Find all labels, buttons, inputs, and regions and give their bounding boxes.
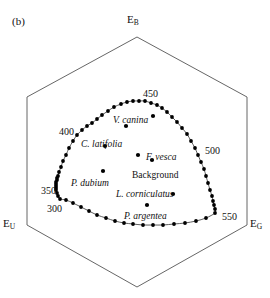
locus-point bbox=[113, 219, 117, 223]
locus-point bbox=[106, 109, 110, 113]
locus-point bbox=[185, 132, 189, 136]
locus-point bbox=[204, 174, 208, 178]
vertex-label-eg-base: E bbox=[250, 217, 257, 229]
color-hexagon-figure: (b) EB EU EG 450400500350300550 V. canin… bbox=[0, 0, 270, 298]
vertex-label-eg-sub: G bbox=[257, 222, 262, 231]
locus-point bbox=[172, 222, 176, 226]
hexagon-outline bbox=[27, 37, 247, 287]
locus-point bbox=[155, 103, 159, 107]
locus-point bbox=[204, 216, 208, 220]
sample-label: P. dubium bbox=[71, 179, 109, 189]
sample-point bbox=[145, 203, 149, 207]
locus-point bbox=[119, 102, 123, 106]
wavelength-label: 450 bbox=[143, 89, 158, 99]
hexagon-plot-svg bbox=[0, 0, 270, 298]
locus-point bbox=[87, 209, 91, 213]
locus-point bbox=[143, 99, 147, 103]
locus-point bbox=[210, 194, 214, 198]
locus-point bbox=[208, 188, 212, 192]
sample-label: F. vesca bbox=[146, 153, 176, 163]
wavelength-label: 550 bbox=[222, 212, 237, 222]
locus-point bbox=[213, 207, 217, 211]
sample-point bbox=[151, 114, 155, 118]
locus-point bbox=[141, 223, 145, 227]
vertex-label-eg: EG bbox=[250, 218, 262, 229]
vertex-label-eb-sub: B bbox=[134, 18, 139, 27]
vertex-label-eb-base: E bbox=[127, 13, 134, 25]
locus-point bbox=[85, 124, 89, 128]
locus-point bbox=[175, 120, 179, 124]
locus-point bbox=[79, 205, 83, 209]
locus-point bbox=[100, 113, 104, 117]
locus-point bbox=[71, 201, 75, 205]
locus-point bbox=[151, 223, 155, 227]
locus-point bbox=[170, 115, 174, 119]
locus-point bbox=[131, 222, 135, 226]
vertex-label-eb: EB bbox=[127, 14, 139, 25]
locus-point bbox=[213, 211, 217, 215]
locus-point bbox=[211, 199, 215, 203]
locus-point bbox=[131, 99, 135, 103]
locus-point bbox=[95, 117, 99, 121]
locus-point bbox=[149, 101, 153, 105]
locus-point bbox=[80, 128, 84, 132]
locus-point bbox=[95, 213, 99, 217]
locus-point bbox=[64, 153, 68, 157]
locus-point bbox=[202, 167, 206, 171]
wavelength-label: 400 bbox=[59, 127, 74, 137]
sample-label: P. argentea bbox=[124, 212, 167, 222]
locus-point bbox=[199, 160, 203, 164]
locus-point bbox=[189, 139, 193, 143]
locus-point bbox=[212, 203, 216, 207]
locus-point bbox=[56, 174, 60, 178]
locus-point bbox=[180, 126, 184, 130]
locus-point bbox=[71, 139, 75, 143]
wavelength-label: 350 bbox=[41, 186, 56, 196]
locus-point bbox=[137, 99, 141, 103]
locus-point bbox=[161, 223, 165, 227]
locus-point bbox=[112, 105, 116, 109]
vertex-label-eu-base: E bbox=[3, 217, 10, 229]
locus-point bbox=[64, 198, 68, 202]
locus-point bbox=[90, 121, 94, 125]
sample-label: Background bbox=[132, 171, 178, 181]
locus-point bbox=[75, 133, 79, 137]
sample-label: C. latifolia bbox=[81, 140, 122, 150]
sample-label: V. canina bbox=[113, 116, 148, 126]
wavelength-label: 300 bbox=[47, 204, 62, 214]
locus-point bbox=[59, 165, 63, 169]
wavelength-label: 500 bbox=[205, 146, 220, 156]
sample-point bbox=[101, 169, 105, 173]
locus-point bbox=[160, 106, 164, 110]
locus-point bbox=[104, 216, 108, 220]
locus-point bbox=[125, 100, 129, 104]
locus-point bbox=[193, 146, 197, 150]
sample-label: L. corniculatus bbox=[116, 190, 174, 200]
sample-point bbox=[136, 153, 140, 157]
locus-point bbox=[67, 146, 71, 150]
locus-point bbox=[61, 159, 65, 163]
vertex-label-eu-sub: U bbox=[10, 222, 15, 231]
panel-label: (b) bbox=[12, 16, 25, 27]
locus-point bbox=[196, 153, 200, 157]
locus-point bbox=[122, 221, 126, 225]
vertex-label-eu: EU bbox=[3, 218, 15, 229]
locus-point bbox=[165, 110, 169, 114]
locus-point bbox=[194, 219, 198, 223]
locus-point bbox=[206, 181, 210, 185]
locus-point bbox=[183, 221, 187, 225]
locus-point bbox=[57, 170, 61, 174]
